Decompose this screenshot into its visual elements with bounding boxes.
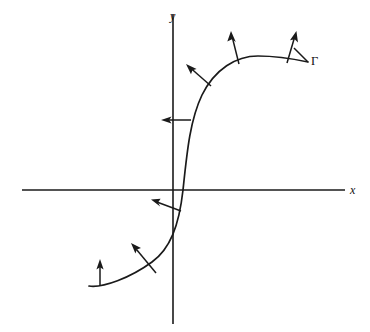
normal-vector-5 [186,64,211,86]
vector-5-shaft [192,70,211,87]
y-axis-label: y [170,10,175,22]
vector-6-arrowhead [227,31,236,42]
normal-vector-6 [227,31,239,64]
normal-vector-7 [287,31,298,63]
normal-vectors-group [96,31,298,286]
normal-vector-4 [161,116,191,123]
gamma-curve [89,56,308,286]
diagram-svg [0,0,370,332]
gamma-curve-label: Γ [311,55,318,68]
normal-vector-1 [96,259,103,286]
x-axis-label: x [350,184,355,196]
normal-vector-3 [151,199,181,211]
vector-3-shaft [158,202,182,211]
figure-canvas: y x Γ [0,0,370,332]
curve-group [89,48,308,286]
